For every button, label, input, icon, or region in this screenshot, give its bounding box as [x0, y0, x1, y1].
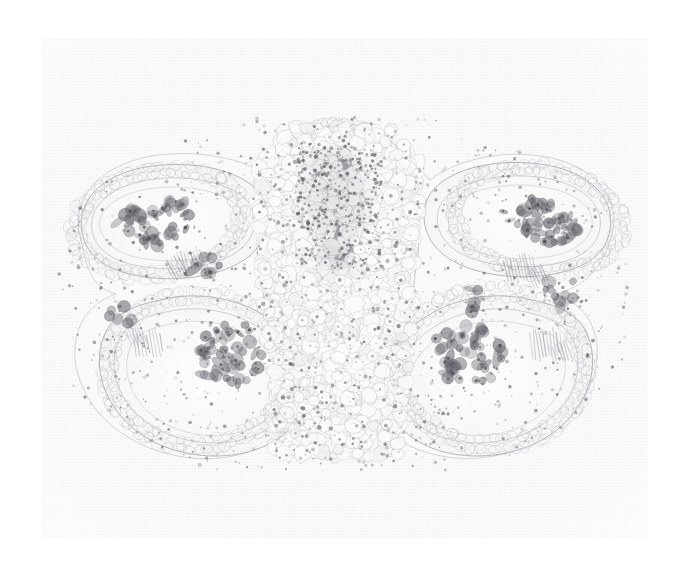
median-groove: [317, 246, 354, 452]
vascular-bundle: [296, 145, 376, 272]
locule-upper-left: [81, 164, 268, 278]
tissue-outline-layer: [0, 0, 681, 579]
connective-parenchyma: [256, 127, 419, 452]
pollen-sac-layer: [0, 0, 681, 579]
epidermis-cell-layer: [0, 0, 681, 579]
anther-specimen: [0, 0, 681, 579]
pollen-grain-layer: [0, 0, 681, 579]
locule-lower-left: [99, 296, 307, 456]
locule-lower-right: [384, 296, 592, 456]
parenchyma-cell-layer: [0, 0, 681, 579]
micrograph-canvas: [0, 0, 681, 579]
stain-speckle-layer: [0, 0, 681, 579]
locule-upper-right: [424, 162, 611, 276]
endothecium-fiber-layer: [0, 0, 681, 579]
anther-body: [75, 124, 614, 459]
